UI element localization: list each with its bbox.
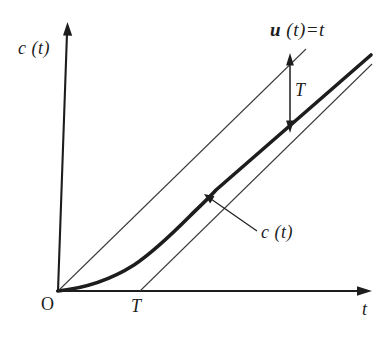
label-u-equation-rest: (t)=t bbox=[281, 19, 325, 40]
figure-canvas: u (t)=t c (t) c (t) t O T T bbox=[0, 0, 392, 339]
x-axis bbox=[57, 286, 372, 295]
figure-vector-layer bbox=[0, 0, 392, 339]
label-x-axis-t: t bbox=[362, 300, 367, 318]
line-u-identity bbox=[58, 49, 306, 291]
curve-c-of-t bbox=[58, 55, 371, 291]
y-axis bbox=[58, 22, 72, 291]
label-x-tick-T: T bbox=[131, 297, 141, 315]
label-gap-T: T bbox=[295, 81, 305, 99]
label-curve-c: c (t) bbox=[261, 223, 293, 241]
label-u-symbol: u bbox=[270, 19, 281, 40]
y-axis-arrowhead bbox=[63, 22, 72, 36]
label-y-axis-c: c (t) bbox=[18, 39, 50, 57]
label-u-equation: u (t)=t bbox=[270, 20, 325, 39]
label-origin-O: O bbox=[41, 295, 54, 313]
gap-arrow-T bbox=[286, 53, 294, 133]
callout-leader-c bbox=[204, 194, 257, 231]
x-axis-arrowhead bbox=[357, 286, 372, 295]
gap-arrow-head-up bbox=[286, 53, 294, 66]
